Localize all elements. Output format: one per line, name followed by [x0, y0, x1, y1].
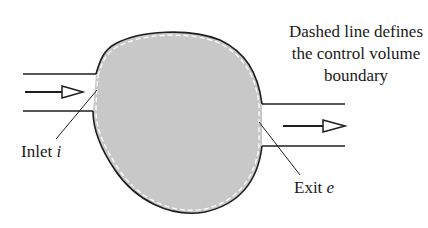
caption-line-1: Dashed line defines [289, 22, 423, 41]
control-volume-diagram: Dashed line defines the control volume b… [0, 0, 428, 228]
inlet-label-text: Inlet [21, 142, 56, 161]
exit-label: Exit e [294, 178, 335, 197]
inlet-label-symbol: i [56, 142, 61, 161]
exit-label-text: Exit [294, 178, 327, 197]
exit-flow-arrow-icon [283, 120, 345, 132]
vessel-body [93, 32, 262, 213]
caption-line-3: boundary [324, 66, 389, 85]
exit-leader-line [259, 122, 300, 175]
inlet-label: Inlet i [21, 142, 61, 161]
inlet-flow-arrow-icon [25, 86, 83, 98]
exit-label-symbol: e [327, 178, 335, 197]
caption-line-2: the control volume [292, 44, 420, 63]
